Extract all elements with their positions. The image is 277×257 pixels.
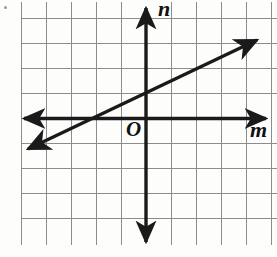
scan-artifact-speck bbox=[4, 6, 7, 9]
origin-label: O bbox=[126, 119, 141, 140]
y-axis-label: n bbox=[158, 0, 170, 20]
x-axis-label: m bbox=[250, 119, 267, 141]
grid bbox=[21, 2, 277, 245]
plotted-line bbox=[28, 40, 257, 149]
plotted-line-group bbox=[28, 40, 257, 149]
coordinate-graph-figure: n m O bbox=[0, 0, 277, 257]
